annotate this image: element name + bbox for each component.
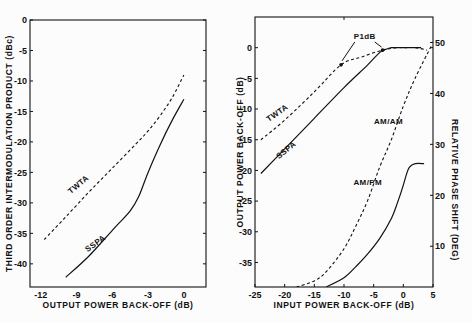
series-twta-am-pm xyxy=(297,45,432,287)
y2-tick-label: 20 xyxy=(435,191,445,201)
y2-tick-label: 40 xyxy=(435,89,445,99)
x-axis-title: INPUT POWER BACK-OFF (dB) xyxy=(273,300,414,310)
x-tick-label: 0 xyxy=(181,290,186,300)
y2-tick-label: 50 xyxy=(435,38,445,48)
series-sspa xyxy=(66,99,184,277)
y-axis-title: OUTPUT POWER BACK-OFF (dB) xyxy=(235,76,245,227)
x-tick-label: -5 xyxy=(370,290,378,300)
y-tick-label: -35 xyxy=(14,229,27,239)
y-tick-label: -5 xyxy=(19,46,27,56)
y-tick-label: -25 xyxy=(14,168,27,178)
figure: -12-9-6-300-5-10-15-20-25-30-35-40OUTPUT… xyxy=(0,0,472,323)
y-tick-label: 0 xyxy=(22,15,27,25)
y2-tick-label: 30 xyxy=(435,140,445,150)
y-tick-label: 0 xyxy=(247,43,252,53)
x-axis-title: OUTPUT POWER BACK-OFF (dB) xyxy=(42,300,193,310)
x-tick-label: -25 xyxy=(248,290,261,300)
x-tick-label: -3 xyxy=(144,290,152,300)
twta-label: TWTA xyxy=(66,173,90,195)
x-tick-label: -20 xyxy=(278,290,291,300)
y2-axis-title: RELATIVE PHASE SHIFT (DEG) xyxy=(450,119,460,261)
amam-ampm-plot: -25-20-15-10-5050-5-10-15-20-25-30-35102… xyxy=(235,17,460,310)
x-tick-label: -12 xyxy=(34,290,47,300)
y-tick-label: -15 xyxy=(14,107,27,117)
x-tick-label: -10 xyxy=(337,290,350,300)
x-tick-label: -6 xyxy=(108,290,116,300)
p1db-label: P1dB xyxy=(354,32,376,41)
y-axis-title: THIRD ORDER INTERMODULATION PRODUCT (dBc… xyxy=(4,35,14,272)
twta-label: TWTA xyxy=(265,103,290,124)
y-tick-label: -20 xyxy=(14,137,27,147)
y-tick-label: -40 xyxy=(14,259,27,269)
y-tick-label: -5 xyxy=(244,74,252,84)
am-pm-label: AM/PM xyxy=(353,178,382,187)
y-tick-label: -10 xyxy=(14,76,27,86)
y2-tick-label: 10 xyxy=(435,241,445,251)
p1db-marker xyxy=(339,63,343,67)
p1db-marker xyxy=(381,48,385,52)
x-tick-label: -9 xyxy=(73,290,81,300)
series-twta xyxy=(44,75,184,240)
x-tick-label: 5 xyxy=(430,290,435,300)
imd-plot: -12-9-6-300-5-10-15-20-25-30-35-40OUTPUT… xyxy=(4,15,206,310)
y-tick-label: -30 xyxy=(14,198,27,208)
sspa-label: SSPA xyxy=(274,139,297,161)
x-tick-label: 0 xyxy=(401,290,406,300)
x-tick-label: -15 xyxy=(308,290,321,300)
sspa-label: SSPA xyxy=(83,233,107,254)
am-am-label: AM/AM xyxy=(374,117,403,126)
y-tick-label: -35 xyxy=(239,258,252,268)
plot-frame xyxy=(30,20,206,287)
